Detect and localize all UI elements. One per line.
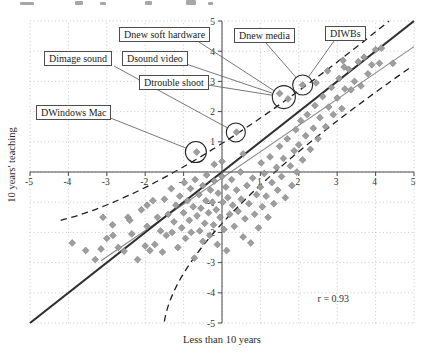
scatter-point <box>273 164 280 171</box>
scatter-point <box>193 149 200 156</box>
scatter-point <box>211 161 218 168</box>
y-axis-title: 10 years' teaching <box>6 127 17 203</box>
scatter-point <box>280 155 287 162</box>
scatter-point <box>340 57 347 64</box>
scatter-point <box>146 247 153 254</box>
scatter-point <box>163 232 170 239</box>
scatter-point <box>287 163 294 170</box>
scatter-point <box>244 182 251 189</box>
scatter-point <box>205 209 212 216</box>
x-axis-tick-label: -2 <box>140 177 148 187</box>
scatter-point <box>134 256 141 263</box>
scatter-point <box>237 169 244 176</box>
scatter-point <box>269 179 276 186</box>
scatter-point <box>291 147 298 154</box>
scatter-point <box>317 114 324 121</box>
scatter-point <box>302 132 309 139</box>
scatter-point <box>178 224 185 231</box>
scatter-point <box>368 61 375 68</box>
scatter-point <box>144 202 151 209</box>
x-axis-tick-label: 4 <box>372 177 377 187</box>
callout-box-dsound-video: Dsound video <box>122 51 188 66</box>
outlier-circle-B <box>272 86 295 109</box>
callout-connector-line <box>266 43 296 77</box>
scatter-point <box>190 203 197 210</box>
scatter-point <box>142 243 149 250</box>
scatter-point <box>299 157 306 164</box>
scatter-point <box>240 234 247 241</box>
scatter-point <box>251 211 258 218</box>
scatter-point <box>249 175 256 182</box>
scatter-point <box>109 221 116 228</box>
scatter-point <box>259 203 266 210</box>
scatter-point <box>157 227 164 234</box>
scatter-point <box>69 240 76 247</box>
scatter-point <box>242 215 249 222</box>
scatter-point <box>255 224 262 231</box>
scatter-point <box>82 247 89 254</box>
scatter-point <box>229 202 236 209</box>
scatter-point <box>288 182 295 189</box>
x-axis-tick-label: 5 <box>411 177 416 187</box>
callout-connector-line <box>108 117 186 148</box>
y-axis-tick-label: 5 <box>210 17 215 27</box>
scatter-point <box>278 173 285 180</box>
scatter-point <box>338 105 345 112</box>
scatter-point <box>100 214 107 221</box>
scatter-point <box>128 231 135 238</box>
scatter-point <box>219 158 226 165</box>
scatter-point <box>196 227 203 234</box>
callout-label: DIWBs <box>330 28 361 39</box>
scatter-point <box>226 211 233 218</box>
scatter-point <box>110 232 117 239</box>
callout-box-diwbs: DIWBs <box>325 26 366 41</box>
scatter-point <box>263 193 270 200</box>
scatter-point <box>233 187 240 194</box>
scatter-point <box>222 184 229 191</box>
scatter-point <box>315 135 322 142</box>
scatter-point <box>174 244 181 251</box>
callout-label: DWindows Mac <box>41 107 106 118</box>
scatter-point <box>299 82 306 89</box>
scatter-point <box>376 60 383 67</box>
scatter-point <box>295 141 302 148</box>
callout-label: Dtrouble shoot <box>144 77 204 88</box>
scatter-point <box>149 197 156 204</box>
scatter-point <box>103 235 110 242</box>
x-axis-tick-label: -3 <box>102 177 110 187</box>
scatter-point <box>325 104 332 111</box>
scatter-point <box>265 214 272 221</box>
y-axis-tick-label: 1 <box>210 137 215 147</box>
callout-box-dwindows-mac: DWindows Mac <box>36 105 111 120</box>
scatter-point <box>187 185 194 192</box>
scatter-point <box>284 135 291 142</box>
scatter-point <box>224 194 231 201</box>
scatter-point <box>322 123 329 130</box>
scatter-point <box>307 146 314 153</box>
scatter-point <box>169 229 176 236</box>
scatter-point <box>276 143 283 150</box>
scatter-point <box>270 200 277 207</box>
scatter-point <box>115 244 122 251</box>
scatter-point <box>186 217 193 224</box>
scatter-point <box>168 185 175 192</box>
scatter-point <box>341 86 348 93</box>
scatter-point <box>276 90 283 97</box>
scatter-point <box>261 170 268 177</box>
callout-label: Dnew media <box>239 30 290 41</box>
scatter-point <box>151 241 158 248</box>
scatter-point <box>92 256 99 263</box>
scatter-point <box>194 212 201 219</box>
x-axis-title: Less than 10 years <box>183 334 261 345</box>
scatter-point <box>159 249 166 256</box>
y-axis-tick-label: -3 <box>207 258 215 268</box>
scatter-point <box>192 176 199 183</box>
x-axis-tick-label: -4 <box>63 177 71 187</box>
scatter-point <box>358 83 365 90</box>
scatter-point <box>267 154 274 161</box>
scatter-point <box>197 205 204 212</box>
x-axis-tick-label: 2 <box>295 177 300 187</box>
scatter-point <box>171 218 178 225</box>
scatter-figure: -5-4-3-2-11234554321-1-2-3-4-5Less than … <box>0 0 432 360</box>
scatter-point <box>228 176 235 183</box>
